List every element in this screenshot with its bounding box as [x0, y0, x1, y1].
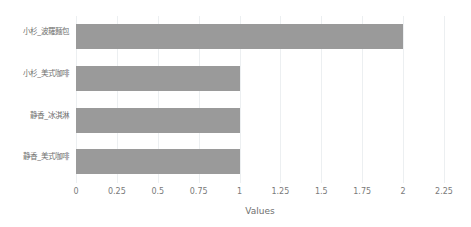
bar-chart: 小杉_波羅麵包 小杉_美式咖啡 静香_冰淇淋 静香_美式咖啡 0 0.25 0.… [0, 0, 471, 227]
bar[interactable] [76, 24, 403, 49]
x-axis-tick-labels: 0 0.25 0.5 0.75 1 1.25 1.5 1.75 2 2.25 [76, 186, 444, 200]
gridline-2.25 [444, 16, 445, 183]
x-axis-tick-label: 0.75 [190, 186, 208, 198]
x-axis-tick-label: 1 [237, 186, 242, 198]
bar-row [76, 58, 444, 100]
x-axis-tick-label: 0 [73, 186, 78, 198]
plot-area [76, 16, 444, 183]
x-axis-tick-label: 1.75 [353, 186, 371, 198]
bar[interactable] [76, 149, 240, 174]
y-axis-tick-label: 小杉_波羅麵包 [0, 27, 69, 37]
bar-row [76, 16, 444, 58]
x-axis-tick-label: 0.25 [108, 186, 126, 198]
y-axis-tick-labels: 小杉_波羅麵包 小杉_美式咖啡 静香_冰淇淋 静香_美式咖啡 [0, 16, 69, 183]
x-axis-tick-label: 2 [401, 186, 406, 198]
bar[interactable] [76, 108, 240, 133]
y-axis-tick-label: 静香_美式咖啡 [0, 152, 69, 162]
bar-row [76, 141, 444, 183]
x-axis-tick-label: 1.25 [271, 186, 289, 198]
x-axis-tick-label: 0.5 [151, 186, 164, 198]
x-axis-title: Values [76, 205, 444, 217]
x-axis-tick-label: 2.25 [435, 186, 453, 198]
y-axis-tick-label: 静香_冰淇淋 [0, 111, 69, 121]
x-axis-tick-label: 1.5 [315, 186, 328, 198]
y-axis-tick-label: 小杉_美式咖啡 [0, 69, 69, 79]
bar[interactable] [76, 66, 240, 91]
bar-row [76, 100, 444, 142]
chart-title [0, 0, 471, 4]
